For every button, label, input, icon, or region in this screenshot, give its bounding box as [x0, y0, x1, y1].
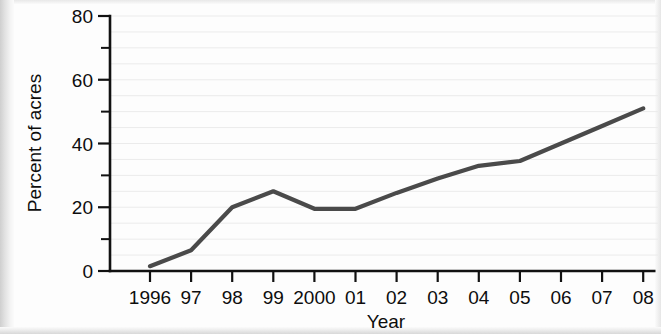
- y-tick-label: 80: [72, 6, 93, 27]
- y-axis-tick-labels: 020406080: [72, 6, 93, 282]
- data-series-line: [150, 108, 643, 266]
- x-tick-label: 01: [345, 287, 366, 308]
- y-tick-label: 0: [82, 261, 93, 282]
- x-tick-label: 99: [263, 287, 284, 308]
- x-tick-label: 1996: [129, 287, 171, 308]
- y-axis-title: Percent of acres: [24, 74, 45, 212]
- y-tick-label: 40: [72, 134, 93, 155]
- y-tick-label: 60: [72, 70, 93, 91]
- x-tick-label: 04: [468, 287, 490, 308]
- x-tick-label: 07: [592, 287, 613, 308]
- x-axis-ticks: [150, 271, 643, 282]
- y-axis-ticks: [98, 16, 110, 271]
- x-tick-label: 03: [427, 287, 448, 308]
- x-axis-tick-labels: 199697989920000102030405060708: [129, 287, 654, 308]
- x-tick-label: 02: [386, 287, 407, 308]
- chart-page: 020406080 199697989920000102030405060708…: [0, 0, 661, 334]
- x-axis-title: Year: [367, 311, 406, 332]
- x-tick-label: 2000: [293, 287, 335, 308]
- x-tick-label: 08: [633, 287, 654, 308]
- x-tick-label: 05: [509, 287, 530, 308]
- x-tick-label: 98: [222, 287, 243, 308]
- y-tick-label: 20: [72, 197, 93, 218]
- line-chart: 020406080 199697989920000102030405060708…: [0, 0, 661, 334]
- x-tick-label: 06: [550, 287, 571, 308]
- x-tick-label: 97: [181, 287, 202, 308]
